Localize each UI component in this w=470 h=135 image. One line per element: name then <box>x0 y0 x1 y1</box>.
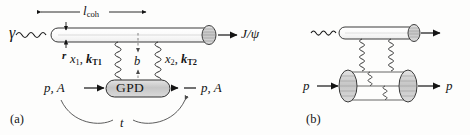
photon-label-a: γ <box>9 25 15 41</box>
vertex-blob-a <box>202 26 216 45</box>
internal-gluon-upper-b <box>368 72 372 86</box>
coherence-length-label: lcoh <box>83 4 99 18</box>
coherence-length-subscript: coh <box>87 9 99 19</box>
gluon-right-b <box>389 39 394 71</box>
label-separator-left: , <box>80 52 83 66</box>
panel-b-caption: (b) <box>306 113 321 126</box>
impact-parameter-label: b <box>134 55 140 68</box>
proton-quark-lines-b <box>350 72 406 100</box>
dipole-size-label: r <box>62 50 66 61</box>
dipole-tube-a <box>51 28 206 42</box>
gpd-blob-label: GPD <box>116 81 144 95</box>
proton-out-label-b: p <box>446 79 453 92</box>
proton-in-label-b: p <box>303 79 310 92</box>
target-in-label-a: p, A <box>44 81 65 94</box>
figure-container: γ lcoh r x1, kT1 b x2, kT2 p, A GPD p, A… <box>0 0 470 135</box>
photon-line-a <box>16 33 46 38</box>
momentum-transfer-label: t <box>120 117 123 130</box>
internal-gluon-lower-b <box>383 86 387 100</box>
panel-a-caption: (a) <box>10 113 24 126</box>
diagram-vector-layer <box>0 0 470 135</box>
kt2-subscript: T2 <box>187 58 197 67</box>
proton-blob-right-b <box>399 70 417 102</box>
final-state-label: J/ψ <box>241 27 259 41</box>
gluon-left-b <box>360 39 365 71</box>
target-out-label-a: p, A <box>201 81 222 94</box>
gluon-right-label-a: x2, kT2 <box>165 53 197 67</box>
gluon-left-label-a: x1, kT1 <box>70 53 102 67</box>
dipole-tube-b <box>339 27 412 39</box>
vertex-blob-b <box>408 25 420 42</box>
kt1-subscript: T1 <box>92 58 102 67</box>
proton-blob-left-b <box>339 70 357 102</box>
photon-line-b <box>311 31 336 35</box>
label-separator-right: , <box>175 52 178 66</box>
